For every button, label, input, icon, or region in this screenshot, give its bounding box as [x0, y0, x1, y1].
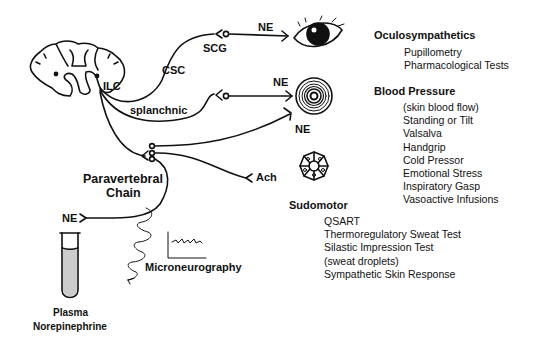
list-item: Cold Pressor [403, 154, 499, 167]
plasma-label: Plasma [53, 307, 88, 318]
ilc-label: ILC [103, 80, 121, 92]
list-item: (skin blood flow) [403, 101, 499, 114]
list-item: Pharmacological Tests [404, 59, 509, 72]
oculosympathetics-heading: Oculosympathetics [374, 29, 475, 41]
list-item: Thermoregulatory Sweat Test [324, 228, 461, 241]
paravertebral-label: Paravertebral [83, 172, 163, 186]
splanchnic-label: splanchnic [130, 104, 187, 116]
list-item: Standing or Tilt [403, 114, 499, 127]
sudomotor-label: Sudomotor [289, 199, 348, 211]
chain-label: Chain [106, 186, 141, 200]
nerve-trace-icon [168, 232, 206, 258]
eye-icon [294, 16, 344, 46]
list-item: (sweat droplets) [324, 255, 461, 268]
csc-label: CSC [162, 64, 185, 76]
list-item: Emotional Stress [403, 167, 499, 180]
scg-label: SCG [203, 42, 227, 54]
blood-pressure-list: (skin blood flow) Standing or Tilt Valsa… [403, 101, 499, 207]
list-item: Handgrip [403, 141, 499, 154]
ne-eye-label: NE [258, 21, 273, 33]
microneurography-label: Microneurography [145, 261, 242, 273]
blood-vessel-icon [296, 78, 332, 114]
ne-skin-vessel-label: NE [295, 123, 310, 135]
list-item: QSART [324, 215, 461, 228]
list-item: Sympathetic Skin Response [324, 268, 461, 281]
list-item: Pupillometry [404, 46, 509, 59]
list-item: Vasoactive Infusions [403, 193, 499, 206]
oculosympathetics-list: Pupillometry Pharmacological Tests [404, 46, 509, 72]
sudomotor-list: QSART Thermoregulatory Sweat Test Silast… [324, 215, 461, 281]
ne-vessel-label: NE [273, 76, 288, 88]
test-tube-icon [60, 233, 80, 298]
list-item: Valsalva [403, 127, 499, 140]
ne-plasma-label: NE [62, 212, 77, 224]
blood-pressure-heading: Blood Pressure [374, 85, 455, 97]
list-item: Inspiratory Gasp [403, 180, 499, 193]
ach-label: Ach [256, 171, 277, 183]
norepinephrine-label: Norepinephrine [33, 321, 107, 332]
sweat-gland-icon [300, 152, 328, 180]
list-item: Silastic Impression Test [324, 241, 461, 254]
